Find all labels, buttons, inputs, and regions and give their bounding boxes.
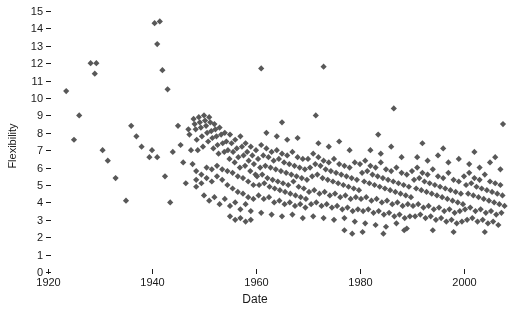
- scatter-plot-figure: Flexibility Date: [0, 0, 510, 318]
- scatter-plot-canvas: [0, 0, 510, 318]
- y-axis-label: Flexibility: [6, 106, 18, 186]
- x-axis-label: Date: [0, 292, 510, 306]
